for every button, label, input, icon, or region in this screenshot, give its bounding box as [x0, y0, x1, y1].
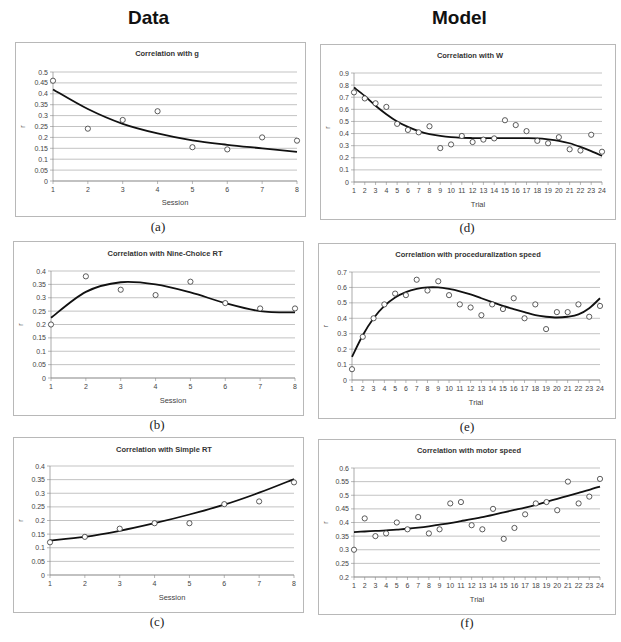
data-point: [362, 96, 367, 101]
y-tick-label: 0.4: [339, 519, 349, 526]
trend-line: [53, 89, 297, 151]
chart-title: Correlation with g: [135, 49, 199, 58]
y-tick-label: 0.1: [36, 348, 46, 355]
y-tick-label: 0.5: [339, 492, 349, 499]
x-tick-label: 20: [555, 187, 563, 194]
x-tick-label: 20: [553, 385, 561, 392]
x-tick-label: 23: [585, 385, 593, 392]
x-tick-label: 10: [446, 582, 454, 589]
x-tick-label: 17: [521, 385, 529, 392]
x-tick-label: 18: [533, 187, 541, 194]
data-point: [383, 531, 388, 536]
x-tick-label: 11: [458, 187, 465, 194]
x-tick-label: 16: [511, 582, 519, 589]
data-point: [469, 523, 474, 528]
data-point: [545, 141, 550, 146]
x-tick-label: 12: [467, 385, 475, 392]
data-point: [436, 279, 441, 284]
chart-title: Correlation with motor speed: [417, 446, 522, 455]
data-point: [458, 499, 463, 504]
x-tick-label: 2: [83, 580, 87, 587]
x-tick-label: 5: [187, 580, 191, 587]
x-tick-label: 15: [499, 385, 507, 392]
data-point: [578, 148, 583, 153]
data-point: [373, 101, 378, 106]
x-tick-label: 8: [427, 582, 431, 589]
y-tick-label: 0.35: [32, 281, 46, 288]
x-tick-label: 24: [596, 582, 604, 589]
x-tick-label: 23: [587, 187, 595, 194]
data-point: [533, 302, 538, 307]
x-tick-label: 8: [295, 186, 299, 193]
x-tick-label: 4: [153, 580, 157, 587]
data-point: [373, 534, 378, 539]
x-tick-label: 14: [488, 385, 496, 392]
y-axis-label: r: [322, 324, 329, 327]
y-tick-label: 0.6: [337, 284, 347, 291]
y-tick-label: 0.6: [339, 106, 349, 113]
data-point: [117, 526, 122, 531]
data-point: [222, 502, 227, 507]
x-tick-label: 7: [417, 187, 421, 194]
x-tick-label: 2: [84, 383, 88, 390]
chart-a: Correlation with g00.050.10.150.20.250.3…: [19, 49, 300, 207]
x-tick-label: 6: [406, 582, 410, 589]
data-point: [384, 104, 389, 109]
x-tick-label: 10: [445, 385, 453, 392]
x-tick-label: 2: [361, 385, 365, 392]
data-point: [426, 531, 431, 536]
x-tick-label: 3: [119, 383, 123, 390]
x-axis-label: Session: [159, 593, 186, 602]
x-tick-label: 1: [352, 582, 356, 589]
x-tick-label: 8: [293, 383, 297, 390]
x-tick-label: 14: [490, 187, 498, 194]
chart-f: Correlation with motor speed0.20.250.30.…: [322, 446, 604, 604]
data-point: [500, 306, 505, 311]
data-point: [425, 288, 430, 293]
x-tick-label: 16: [510, 385, 518, 392]
x-tick-label: 1: [48, 580, 52, 587]
charts-layer: Correlation with g00.050.10.150.20.250.3…: [0, 0, 621, 642]
data-point: [511, 296, 516, 301]
x-tick-label: 24: [596, 385, 604, 392]
x-tick-label: 21: [564, 385, 572, 392]
x-tick-label: 22: [575, 582, 583, 589]
chart-c: Correlation with Simple RT00.050.10.150.…: [17, 445, 297, 602]
data-point: [587, 494, 592, 499]
data-point: [188, 279, 193, 284]
x-tick-label: 1: [352, 187, 356, 194]
x-tick-label: 21: [566, 187, 574, 194]
x-tick-label: 13: [478, 582, 486, 589]
data-point: [258, 306, 263, 311]
data-point: [153, 292, 158, 297]
y-tick-label: 0.15: [32, 334, 46, 341]
y-tick-label: 0.2: [36, 321, 46, 328]
x-tick-label: 19: [543, 582, 551, 589]
y-axis-label: r: [322, 521, 329, 524]
trend-line: [51, 282, 295, 318]
y-tick-label: 0.4: [36, 268, 46, 275]
x-tick-label: 5: [188, 383, 192, 390]
data-point: [405, 127, 410, 132]
y-tick-label: 0.4: [337, 315, 347, 322]
trend-line: [352, 287, 600, 357]
y-tick-label: 0.5: [339, 118, 349, 125]
data-point: [155, 109, 160, 114]
x-tick-label: 7: [415, 385, 419, 392]
data-point: [416, 130, 421, 135]
x-tick-label: 1: [51, 186, 55, 193]
data-point: [597, 303, 602, 308]
data-point: [351, 90, 356, 95]
x-tick-label: 2: [363, 187, 367, 194]
data-point: [556, 135, 561, 140]
chart-title: Correlation with Nine-Choice RT: [107, 249, 222, 258]
data-point: [481, 137, 486, 142]
data-point: [393, 291, 398, 296]
x-axis-label: Trial: [470, 595, 485, 604]
x-tick-label: 11: [457, 582, 464, 589]
x-tick-label: 5: [393, 385, 397, 392]
y-tick-label: 0.7: [339, 94, 349, 101]
y-tick-label: 0.45: [335, 505, 349, 512]
x-tick-label: 10: [447, 187, 455, 194]
chart-d: Correlation with W00.10.20.30.40.50.60.7…: [324, 51, 606, 209]
